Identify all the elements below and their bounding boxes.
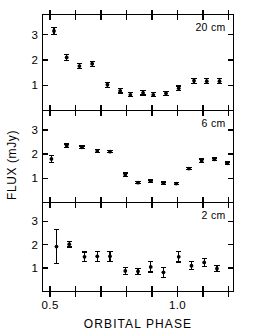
data-point xyxy=(204,79,209,84)
data-point xyxy=(217,79,222,84)
data-point xyxy=(54,230,59,264)
data-marker xyxy=(83,255,87,259)
data-marker xyxy=(205,79,209,83)
data-point xyxy=(176,86,181,91)
ytick-label-2-0: 1 xyxy=(32,262,38,274)
ytick-label-0-0: 1 xyxy=(32,79,38,91)
data-point xyxy=(135,181,140,185)
data-point xyxy=(49,156,54,163)
ytick-label-0-2: 3 xyxy=(32,29,38,41)
data-marker xyxy=(67,242,71,246)
plot-canvas: 12320 cm1236 cm1232 cm0.51.0ORBITAL PHAS… xyxy=(0,0,255,334)
data-marker xyxy=(200,159,204,163)
data-point xyxy=(140,91,145,96)
data-point xyxy=(163,91,168,95)
data-marker xyxy=(177,86,181,90)
x-axis-title: ORBITAL PHASE xyxy=(84,317,192,331)
data-marker xyxy=(108,254,112,258)
data-point xyxy=(118,89,123,94)
data-marker xyxy=(187,167,191,171)
panel-label-2: 2 cm xyxy=(202,209,226,221)
data-point xyxy=(135,268,140,274)
ytick-label-1-1: 2 xyxy=(32,148,38,160)
data-point xyxy=(123,173,128,177)
data-point xyxy=(202,258,207,266)
data-point xyxy=(79,145,84,149)
data-point xyxy=(64,144,69,148)
data-marker xyxy=(123,173,127,177)
data-point xyxy=(161,267,166,277)
data-marker xyxy=(177,255,181,259)
data-marker xyxy=(65,144,69,148)
data-marker xyxy=(225,161,229,165)
data-point xyxy=(148,179,153,183)
data-point xyxy=(191,78,196,83)
data-point xyxy=(174,182,179,186)
data-point xyxy=(161,181,166,185)
data-marker xyxy=(106,83,110,87)
panel-label-0: 20 cm xyxy=(195,21,225,33)
xtick-label-5: 1.0 xyxy=(169,299,186,311)
data-marker xyxy=(215,267,219,271)
data-marker xyxy=(118,89,122,93)
data-marker xyxy=(136,269,140,273)
data-point xyxy=(212,158,217,162)
data-point xyxy=(77,64,82,69)
data-point xyxy=(95,149,100,153)
data-marker xyxy=(162,270,166,274)
data-point xyxy=(199,159,204,163)
ytick-label-1-2: 3 xyxy=(32,124,38,136)
data-point xyxy=(95,251,100,261)
data-marker xyxy=(52,29,56,33)
data-point xyxy=(123,268,128,275)
data-point xyxy=(176,252,181,262)
data-marker xyxy=(78,64,82,68)
xtick-label-0: 0.5 xyxy=(42,299,59,311)
data-marker xyxy=(162,181,166,185)
data-marker xyxy=(136,181,140,185)
data-point xyxy=(214,266,219,272)
y-axis-title: FLUX (mJy) xyxy=(5,130,19,200)
data-point xyxy=(148,262,153,272)
ytick-label-2-1: 2 xyxy=(32,239,38,251)
data-point xyxy=(64,54,69,61)
data-marker xyxy=(55,245,59,249)
data-point xyxy=(105,82,110,87)
data-marker xyxy=(90,62,94,66)
data-point xyxy=(107,251,112,261)
ytick-label-0-1: 2 xyxy=(32,54,38,66)
data-marker xyxy=(141,91,145,95)
data-marker xyxy=(108,150,112,154)
data-marker xyxy=(128,93,132,97)
data-marker xyxy=(95,149,99,153)
data-marker xyxy=(151,93,155,97)
data-point xyxy=(51,27,56,34)
data-point xyxy=(151,93,156,97)
data-point xyxy=(107,150,112,154)
data-marker xyxy=(123,269,127,273)
data-point xyxy=(90,61,95,66)
data-marker xyxy=(213,158,217,162)
data-marker xyxy=(164,91,168,95)
data-marker xyxy=(190,264,194,268)
data-marker xyxy=(202,261,206,265)
data-marker xyxy=(95,254,99,258)
data-marker xyxy=(50,157,54,161)
data-marker xyxy=(174,182,178,186)
data-marker xyxy=(149,179,153,183)
panel-label-1: 6 cm xyxy=(202,117,226,129)
data-marker xyxy=(192,79,196,83)
ytick-label-1-0: 1 xyxy=(32,172,38,184)
data-marker xyxy=(80,145,84,149)
data-point xyxy=(225,161,230,165)
data-point xyxy=(128,93,133,97)
ytick-label-2-2: 3 xyxy=(32,215,38,227)
data-point xyxy=(189,262,194,270)
data-point xyxy=(67,241,72,247)
data-point xyxy=(82,252,87,262)
data-marker xyxy=(65,56,69,60)
data-marker xyxy=(149,265,153,269)
data-point xyxy=(186,167,191,171)
data-marker xyxy=(218,79,222,83)
radio-lightcurve-figure: 12320 cm1236 cm1232 cm0.51.0ORBITAL PHAS… xyxy=(0,0,255,334)
